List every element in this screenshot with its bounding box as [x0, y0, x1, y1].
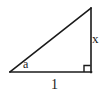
right-triangle-figure: a x 1 — [0, 0, 108, 99]
side-label-1: 1 — [51, 78, 58, 92]
right-angle-marker-icon — [84, 66, 91, 73]
side-label-x: x — [92, 32, 99, 45]
angle-label-a: a — [23, 58, 28, 70]
